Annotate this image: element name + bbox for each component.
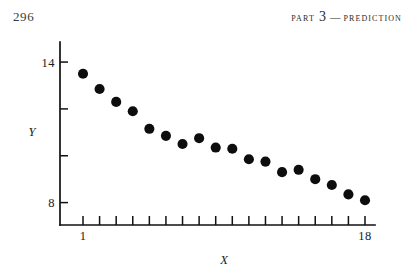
- running-head-title: PART3—PREDICTION: [291, 9, 402, 25]
- y-axis-tick-labels: 814: [42, 56, 56, 211]
- data-point: [227, 144, 237, 154]
- data-point: [194, 133, 204, 143]
- data-point: [244, 154, 254, 164]
- running-head: 296 PART3—PREDICTION: [0, 0, 414, 34]
- data-point: [78, 69, 88, 79]
- data-point: [161, 131, 171, 141]
- y-tick-label: 14: [42, 56, 56, 70]
- x-axis-title: X: [219, 253, 229, 267]
- running-head-dash: —: [329, 12, 344, 23]
- data-point: [95, 84, 105, 94]
- data-point: [211, 143, 221, 153]
- scatter-plot-figure: 814 118 Y X: [0, 34, 414, 278]
- x-axis-ticks: [83, 216, 365, 225]
- data-point: [310, 174, 320, 184]
- x-tick-label: 1: [80, 229, 87, 243]
- running-head-part-number: 3: [315, 9, 329, 24]
- data-point: [327, 180, 337, 190]
- data-point: [177, 139, 187, 149]
- data-points: [78, 69, 370, 206]
- data-point: [128, 106, 138, 116]
- data-point: [277, 167, 287, 177]
- y-tick-label: 8: [48, 196, 55, 210]
- running-head-part-word: PART: [291, 11, 315, 23]
- data-point: [260, 157, 270, 167]
- data-point: [294, 165, 304, 175]
- x-tick-label: 18: [358, 229, 372, 243]
- data-point: [144, 124, 154, 134]
- page-number: 296: [13, 9, 34, 25]
- y-axis-title: Y: [29, 125, 38, 139]
- data-point: [343, 189, 353, 199]
- data-point: [360, 195, 370, 205]
- x-axis-tick-labels: 118: [80, 229, 372, 243]
- running-head-section: PREDICTION: [343, 11, 402, 23]
- data-point: [111, 97, 121, 107]
- y-axis-ticks: [60, 62, 68, 203]
- plot-canvas: 814 118 Y X: [0, 34, 414, 278]
